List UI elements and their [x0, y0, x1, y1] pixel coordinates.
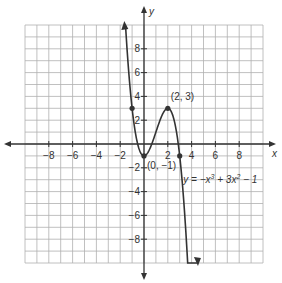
y-tick-label: 4 [134, 91, 140, 102]
curve-bottom-arrow-icon [194, 257, 201, 266]
x-tick-label: 8 [236, 150, 242, 161]
y-tick-label: −6 [129, 210, 141, 221]
data-point [165, 106, 170, 111]
x-tick-label: 4 [189, 150, 195, 161]
x-axis-label: x [271, 148, 278, 159]
x-tick-label: −6 [67, 150, 79, 161]
function-graph: xy −8−6−4−224688642−2−4−6−8 (2, 3)(0, −1… [0, 0, 282, 283]
y-tick-label: −2 [129, 162, 141, 173]
y-tick-label: −8 [129, 234, 141, 245]
data-point [141, 153, 146, 158]
data-point [177, 153, 182, 158]
equation-label: y = −x3 + 3x2 − 1 [182, 173, 257, 185]
x-tick-label: −2 [114, 150, 126, 161]
y-tick-label: 2 [134, 115, 140, 126]
y-tick-label: 8 [134, 43, 140, 54]
data-point [130, 106, 135, 111]
y-axis-label: y [148, 6, 155, 17]
point-label-min: (0, −1) [147, 160, 176, 171]
x-tick-label: 6 [213, 150, 219, 161]
point-label-max: (2, 3) [171, 91, 194, 102]
curve-top-arrow-icon [121, 21, 128, 30]
y-axis-up-arrow-icon [141, 6, 147, 13]
annotations: (2, 3)(0, −1)y = −x3 + 3x2 − 1 [147, 91, 257, 184]
x-axis-right-arrow-icon [269, 141, 276, 147]
y-tick-label: −4 [129, 186, 141, 197]
y-tick-label: 6 [134, 67, 140, 78]
x-tick-label: −8 [43, 150, 55, 161]
y-axis-down-arrow-icon [141, 273, 147, 280]
x-axis-left-arrow-icon [4, 141, 11, 147]
x-tick-label: −4 [91, 150, 103, 161]
